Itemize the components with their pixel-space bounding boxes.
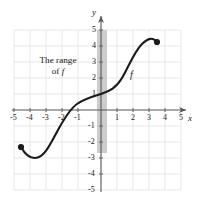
curve-label-f: f [130, 70, 133, 80]
x-tick-label-3: 3 [147, 114, 151, 122]
y-tick-label-1: 1 [92, 90, 96, 98]
endpoint-dot-right [154, 39, 160, 45]
y-tick-label--4: -4 [88, 170, 95, 178]
x-tick-label--3: -3 [42, 114, 49, 122]
range-annotation-line1: The range [24, 56, 92, 65]
coordinate-plane [0, 0, 203, 202]
x-tick-label-4: 4 [163, 114, 167, 122]
y-tick-label--1: -1 [88, 122, 95, 130]
x-axis-label: x [188, 114, 192, 123]
x-tick-label-2: 2 [131, 114, 135, 122]
y-tick-label-3: 3 [92, 58, 96, 66]
x-tick-label-1: 1 [115, 114, 119, 122]
range-annotation-func: f [62, 66, 65, 76]
x-tick-label--4: -4 [26, 114, 33, 122]
y-tick-label--3: -3 [88, 154, 95, 162]
y-tick-label-5: 5 [92, 26, 96, 34]
x-tick-label-5: 5 [179, 114, 183, 122]
y-tick-label-4: 4 [92, 42, 96, 50]
y-axis-label: y [92, 8, 96, 17]
x-tick-label--2: -2 [58, 114, 65, 122]
x-tick-label--5: -5 [10, 114, 17, 122]
x-tick-label--1: -1 [74, 114, 81, 122]
endpoint-dot-left [18, 144, 24, 150]
range-annotation-line2: of f [24, 67, 92, 76]
y-tick-label--2: -2 [88, 138, 95, 146]
y-tick-label--5: -5 [88, 186, 95, 194]
y-tick-label-2: 2 [92, 74, 96, 82]
graph-figure: -5 -4 -3 -2 -1 1 2 3 4 5 5 4 3 2 1 -1 -2… [0, 0, 203, 202]
range-annotation: The range of f [24, 56, 92, 76]
range-annotation-of: of [52, 66, 60, 76]
